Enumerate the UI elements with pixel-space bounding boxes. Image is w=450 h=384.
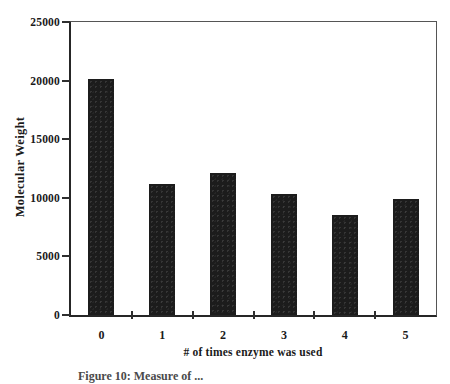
- x-tick-4: [313, 311, 315, 319]
- y-tick-0: [62, 314, 70, 316]
- y-tick-label-5000: 5000: [12, 249, 60, 263]
- y-tick-label-15000: 15000: [12, 132, 60, 146]
- y-tick-15000: [62, 138, 70, 140]
- x-tick-3: [253, 311, 255, 319]
- y-tick-label-20000: 20000: [12, 74, 60, 88]
- y-tick-label-0: 0: [12, 308, 60, 322]
- x-category-label-5: 5: [391, 328, 421, 342]
- y-tick-label-10000: 10000: [12, 191, 60, 205]
- x-category-label-0: 0: [86, 328, 116, 342]
- y-tick-10000: [62, 197, 70, 199]
- bar-x5: [393, 199, 419, 315]
- plot-area: [69, 21, 437, 317]
- x-category-label-3: 3: [269, 328, 299, 342]
- x-tick-5: [374, 311, 376, 319]
- bar-x3: [271, 194, 297, 315]
- bar-x2: [210, 173, 236, 315]
- y-tick-20000: [62, 80, 70, 82]
- bar-x0: [88, 79, 114, 315]
- x-tick-2: [192, 311, 194, 319]
- x-category-label-4: 4: [330, 328, 360, 342]
- bar-x4: [332, 215, 358, 315]
- bar-x1: [149, 184, 175, 315]
- x-axis-title: # of times enzyme was used: [69, 346, 437, 358]
- x-tick-1: [131, 311, 133, 319]
- x-category-label-1: 1: [147, 328, 177, 342]
- figure-caption-clipped: Figure 10: Measure of ...: [78, 369, 203, 384]
- y-tick-label-25000: 25000: [12, 15, 60, 29]
- x-category-label-2: 2: [208, 328, 238, 342]
- y-tick-25000: [62, 21, 70, 23]
- y-tick-5000: [62, 255, 70, 257]
